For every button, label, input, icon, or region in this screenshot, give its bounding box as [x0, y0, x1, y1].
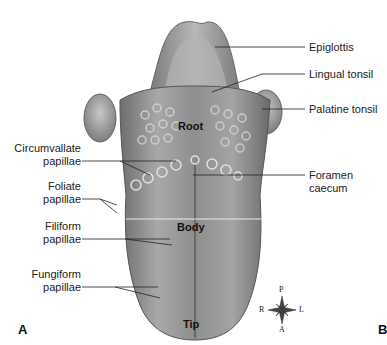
region-body: Body [177, 221, 205, 233]
compass-left: L [299, 305, 304, 314]
region-tip: Tip [183, 318, 199, 330]
compass-right: R [259, 305, 264, 314]
panel-label-a: A [18, 322, 27, 337]
label-foliate-papillae: Foliate papillae [43, 180, 81, 206]
compass-anterior: A [279, 325, 285, 334]
region-root: Root [178, 120, 203, 132]
label-circumvallate-papillae: Circumvallate papillae [14, 142, 81, 168]
label-foramen-caecum: Foramen caecum [309, 169, 353, 195]
label-filiform-papillae: Filiform papillae [43, 220, 81, 246]
palatine-tonsil-left [84, 94, 116, 142]
label-lingual-tonsil: Lingual tonsil [309, 68, 373, 81]
label-palatine-tonsil: Palatine tonsil [309, 103, 378, 116]
label-epiglottis: Epiglottis [309, 41, 354, 54]
compass-posterior: P [279, 285, 283, 294]
compass-rose-icon [268, 296, 296, 324]
panel-label-b: B [378, 322, 387, 337]
label-fungiform-papillae: Fungiform papillae [31, 268, 81, 294]
